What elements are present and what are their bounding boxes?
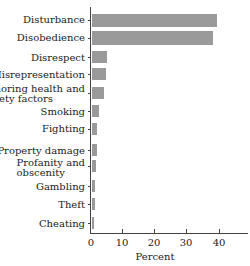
bar-fighting [92,123,97,135]
category-label-profanity-line2: obscenity [17,168,85,178]
category-label-theft: Theft [58,200,85,210]
bar-disobedience [92,31,213,45]
bar-disrespect [92,51,107,63]
x-tick-label-0: 0 [88,237,94,248]
bar-property-damage [92,144,97,156]
category-label-disobedience: Disobedience [17,33,85,43]
category-label-misrepresentation: Misrepresentation [0,70,85,80]
y-tick [88,20,90,21]
category-label-property-damage: Property damage [0,146,85,156]
bar-cheating [92,217,94,229]
bar-gambling [92,180,95,192]
y-tick [88,38,90,39]
y-axis [90,7,91,234]
category-label-fighting: Fighting [42,124,85,134]
y-tick [88,93,90,94]
category-label-disrespect: Disrespect [31,53,85,63]
x-tick-label-10: 10 [116,237,129,248]
x-tick-10 [122,229,123,233]
x-tick-label-30: 30 [180,237,193,248]
category-label-cheating: Cheating [39,219,85,229]
horizontal-bar-chart: Disturbance Disobedience Disrespect Misr… [0,0,250,266]
y-tick [88,57,90,58]
y-tick [88,150,90,151]
y-tick [88,111,90,112]
category-label-ignoring-health: Ignoring health and safety factors [0,84,85,104]
y-tick [88,204,90,205]
y-tick [88,74,90,75]
y-tick [88,166,90,167]
bar-theft [92,198,95,210]
x-tick-30 [186,229,187,233]
y-tick [88,186,90,187]
x-tick-20 [154,229,155,233]
bar-ignoring-health [92,87,104,99]
category-label-smoking: Smoking [41,107,85,117]
bar-disturbance [92,14,217,27]
bar-misrepresentation [92,68,106,80]
x-axis-title: Percent [136,251,175,262]
category-label-disturbance: Disturbance [23,15,85,25]
category-label-profanity: Profanity and obscenity [17,158,85,178]
bar-smoking [92,105,99,117]
category-label-ignoring-line2: safety factors [0,94,85,104]
x-tick-label-40: 40 [213,237,226,248]
bar-profanity [92,160,96,172]
x-tick-40 [219,229,220,233]
x-tick-label-20: 20 [148,237,161,248]
y-tick [88,223,90,224]
x-axis [90,233,248,234]
y-tick [88,129,90,130]
category-label-gambling: Gambling [36,182,85,192]
